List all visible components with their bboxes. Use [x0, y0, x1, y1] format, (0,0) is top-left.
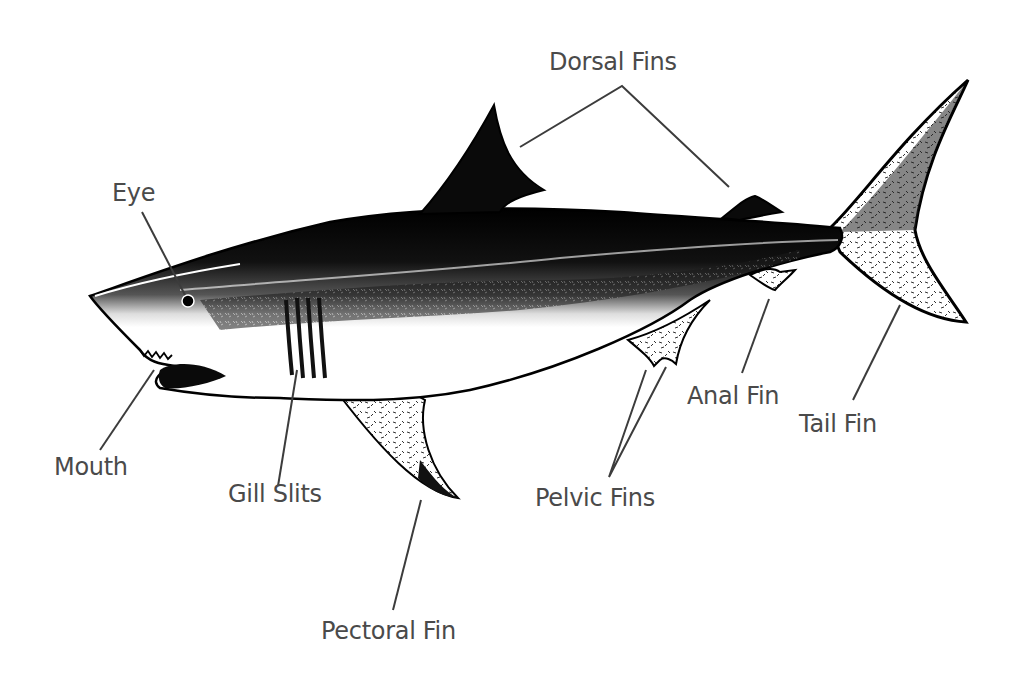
label-pectoral-fin: Pectoral Fin [321, 619, 456, 643]
label-pelvic-fins: Pelvic Fins [535, 486, 655, 510]
tail-fin-shape [830, 80, 968, 322]
label-tail-fin: Tail Fin [799, 412, 877, 436]
anal-fin-leader [742, 299, 769, 373]
label-dorsal-fins: Dorsal Fins [549, 50, 677, 74]
tail-fin-leader [853, 305, 900, 400]
mouth-leader [100, 370, 154, 450]
shark-anatomy-diagram: Dorsal Fins Eye Mouth Gill Slits Pectora… [0, 0, 1026, 683]
eye-shape [182, 295, 194, 307]
pelvic-fins-leader [609, 367, 666, 477]
anal-fin-shape [750, 269, 795, 290]
second-dorsal-fin-shape [722, 196, 782, 220]
shark-illustration [0, 0, 1026, 683]
label-mouth: Mouth [54, 455, 128, 479]
pectoral-fin-leader [393, 500, 421, 610]
first-dorsal-fin-shape [420, 105, 544, 214]
label-gill-slits: Gill Slits [228, 482, 322, 506]
dorsal-fins-leader [520, 86, 729, 187]
label-anal-fin: Anal Fin [687, 384, 779, 408]
label-eye: Eye [112, 181, 155, 205]
